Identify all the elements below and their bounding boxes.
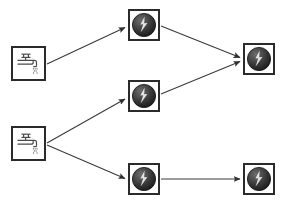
edge-source1-to-node-top (47, 28, 125, 65)
node-middle[interactable]: Sphere node middle (128, 80, 160, 112)
edge-node-top-to-right-top (161, 26, 240, 58)
dark-sphere-icon (131, 166, 157, 192)
node-right-bottom[interactable]: Sphere node right bottom (243, 163, 275, 195)
edge-node-middle-to-right-top (161, 62, 240, 95)
edge-source2-to-node-middle (47, 99, 125, 143)
diagram-canvas: Faucet source 1 (0, 0, 281, 204)
faucet-icon (15, 51, 42, 76)
dark-sphere-icon (131, 12, 157, 38)
dark-sphere-icon (131, 83, 157, 109)
node-source-2[interactable]: Faucet source 2 (11, 126, 46, 161)
faucet-icon (15, 131, 42, 156)
node-right-top[interactable]: Sphere node right top (243, 43, 275, 75)
node-source-1[interactable]: Faucet source 1 (11, 46, 46, 81)
node-top[interactable]: Sphere node top (128, 9, 160, 41)
dark-sphere-icon (246, 166, 272, 192)
dark-sphere-icon (246, 46, 272, 72)
edge-source2-to-node-bottom (47, 145, 125, 179)
node-bottom[interactable]: Sphere node bottom (128, 163, 160, 195)
